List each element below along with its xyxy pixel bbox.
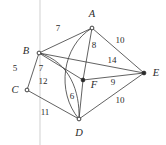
edge-f-d (79, 80, 83, 119)
vertex-label-e: E (153, 68, 159, 79)
edge-weight-b-a: 7 (56, 24, 61, 33)
vertex-label-b: B (23, 46, 29, 57)
vertex-node-b (37, 51, 41, 55)
vertex-label-f: F (91, 80, 97, 91)
edge-weight-c-d: 11 (41, 108, 50, 117)
edge-weight-f-e: 9 (111, 78, 116, 87)
edge-weight-b-c: 5 (13, 64, 18, 73)
vertex-node-d (77, 117, 81, 121)
vertex-node-e (142, 71, 146, 75)
edge-weight-a-f: 8 (92, 41, 97, 50)
edge-layer (27, 28, 144, 119)
vertex-node-f (81, 78, 85, 82)
edge-weight-b-f: 7 (39, 64, 44, 73)
vertex-node-c (25, 88, 29, 92)
edge-weight-a-d: 12 (39, 77, 48, 86)
edge-a-f (83, 28, 92, 80)
vertex-node-a (90, 26, 94, 30)
vertex-label-a: A (89, 9, 95, 20)
edge-b-a (39, 28, 92, 53)
vertex-label-d: D (75, 128, 83, 139)
edge-weight-d-e: 10 (116, 96, 125, 105)
vertex-label-c: C (11, 85, 18, 96)
edge-weight-a-e: 10 (116, 36, 125, 45)
edge-b-c (27, 53, 39, 90)
edge-weight-f-d: 6 (70, 92, 75, 101)
graph-canvas (0, 0, 166, 145)
edge-weight-b-e: 14 (108, 56, 117, 65)
graph-diagram: A B C D E F 7 10 8 14 5 7 12 6 9 11 10 (0, 0, 166, 145)
